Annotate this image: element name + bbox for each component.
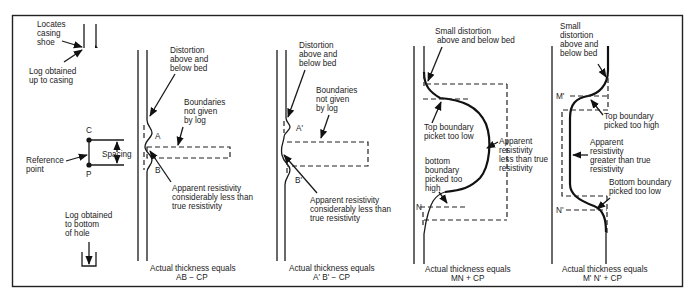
bottom-boundary-label-3: picked too <box>425 175 463 184</box>
reference-label-2: point <box>26 165 44 174</box>
casing-label-3: shoe <box>37 38 55 47</box>
casing-label-2: casing <box>37 29 61 38</box>
label-m-prime: M' <box>556 92 565 101</box>
bottom-boundary-label: Bottom boundary <box>609 178 672 187</box>
distortion-label: Distortion <box>170 46 205 55</box>
spacing-label: Spacing <box>102 150 132 159</box>
panel-1: A B Distortion above and below bed Bound… <box>138 46 253 282</box>
boundaries-label-3: by log <box>316 104 338 113</box>
apparent-label-3: true resistivity <box>172 202 223 211</box>
resistivity-log-diagram: Locates casing shoe Log obtained up to c… <box>0 0 690 299</box>
point-p-label: P <box>86 170 92 179</box>
apparent-label-4: resistivity <box>499 164 534 173</box>
log-curve <box>145 50 152 261</box>
label-n: N <box>416 203 422 212</box>
apparent-label-4: resistivity <box>590 165 625 174</box>
caption: Actual thickness equals <box>425 265 511 274</box>
apparent-label: Apparent <box>499 137 533 146</box>
distortion-label-2: above and below bed <box>437 36 515 45</box>
distortion-label-2: above and <box>170 55 209 64</box>
distortion-label: Small <box>560 22 581 31</box>
label-a-prime: A' <box>296 124 303 133</box>
caption: Actual thickness equals <box>150 264 236 273</box>
distortion-label-3: above and <box>560 40 599 49</box>
distortion-label-3: below bed <box>170 64 208 73</box>
apparent-label-3: less than true <box>499 155 549 164</box>
panel-4: M' N' Small distortion above and below b… <box>552 22 672 283</box>
boundaries-label: Boundaries <box>184 98 225 107</box>
bottom-boundary-label: bottom <box>425 157 450 166</box>
casing-label: Locates <box>37 20 66 29</box>
apparent-label-2: resistivity <box>499 146 534 155</box>
casing-arrow <box>62 41 82 47</box>
apparent-label-2: resistivity <box>590 147 625 156</box>
apparent-label: Apparent resistivity <box>172 184 242 193</box>
panel-3: N Small distortion above and below bed T… <box>414 27 549 283</box>
apparent-label-2: considerably less than <box>310 205 391 214</box>
panel-2: A' B' Distortion above and below bed Bou… <box>277 41 391 282</box>
log-top-label: Log obtained <box>29 67 77 76</box>
boundaries-label-2: not given <box>316 95 350 104</box>
apparent-label: Apparent resistivity <box>310 196 380 205</box>
distortion-label-4: below bed <box>560 49 598 58</box>
log-bottom-label-3: of hole <box>65 229 90 238</box>
log-bottom-label: Log obtained <box>65 211 113 220</box>
bottom-boundary-label-4: high <box>425 184 441 193</box>
legend-panel: Locates casing shoe Log obtained up to c… <box>26 20 132 266</box>
boundaries-label: Boundaries <box>316 86 357 95</box>
distortion-label: Small distortion <box>435 27 491 36</box>
distortion-label-3: below bed <box>299 59 337 68</box>
log-top-label-2: up to casing <box>29 76 74 85</box>
label-a: A <box>155 132 161 141</box>
boundaries-label-3: by log <box>184 116 206 125</box>
log-curve <box>281 50 290 261</box>
distortion-label-2: distortion <box>560 31 594 40</box>
apparent-label: Apparent <box>590 138 624 147</box>
apparent-label-2: considerably less than <box>172 193 253 202</box>
distortion-label: Distortion <box>299 41 334 50</box>
caption: Actual thickness equals <box>562 265 648 274</box>
top-boundary-label-2: picked too high <box>604 121 660 130</box>
caption-formula: MN + CP <box>451 274 485 283</box>
log-bottom-label-2: to bottom <box>65 220 99 229</box>
top-boundary-label: Top boundary <box>604 112 655 121</box>
reference-arrow <box>66 155 87 161</box>
label-b: B <box>155 166 161 175</box>
label-b-prime: B' <box>295 176 302 185</box>
point-c-label: C <box>86 126 92 135</box>
bottom-boundary-label-2: boundary <box>425 166 460 175</box>
caption-formula: A' B' − CP <box>313 273 351 282</box>
log-top-arrow <box>64 50 82 62</box>
caption-formula: AB − CP <box>176 273 208 282</box>
boundaries-label-2: not given <box>184 107 218 116</box>
bottom-boundary-label-2: picked too low <box>609 187 661 196</box>
apparent-label-3: greater than true <box>590 156 651 165</box>
reference-label: Reference <box>26 156 64 165</box>
label-n-prime: N' <box>556 206 564 215</box>
caption-formula: M' N' + CP <box>583 274 622 283</box>
top-boundary-label: Top boundary <box>424 123 475 132</box>
apparent-label-3: true resistivity <box>310 214 361 223</box>
distortion-label-2: above and <box>299 50 338 59</box>
top-boundary-label-2: picket too low <box>424 132 474 141</box>
caption: Actual thickness equals <box>289 264 375 273</box>
